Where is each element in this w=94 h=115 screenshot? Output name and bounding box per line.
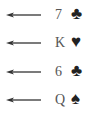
card-row: 7 ♣ (0, 5, 94, 25)
spades-icon: ♠ (71, 89, 80, 109)
card-rank: K (55, 35, 65, 51)
hearts-icon: ♥ (71, 32, 81, 52)
card-row: 6 ♣ (0, 62, 94, 82)
card-row: Q ♠ (0, 90, 94, 110)
card-rank: Q (55, 92, 65, 108)
card-rank: 6 (55, 64, 62, 80)
clubs-icon: ♣ (71, 61, 82, 81)
left-arrow-icon (6, 42, 42, 44)
left-arrow-icon (6, 71, 42, 73)
card-rank: 7 (55, 7, 62, 23)
left-arrow-icon (6, 99, 42, 101)
left-arrow-icon (6, 14, 42, 16)
clubs-icon: ♣ (71, 4, 82, 24)
card-row: K ♥ (0, 33, 94, 53)
